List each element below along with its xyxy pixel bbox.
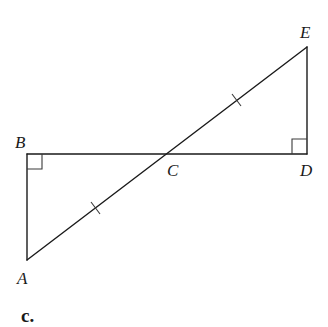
label-d: D <box>299 161 313 180</box>
figure-caption: c. <box>21 305 34 326</box>
geometry-diagram: A B C D E c. <box>0 0 328 327</box>
right-angle-marker-b <box>27 154 42 169</box>
label-b: B <box>15 133 26 152</box>
right-angle-marker-d <box>292 139 307 154</box>
label-e: E <box>299 23 311 42</box>
label-c: C <box>167 161 179 180</box>
congruence-tick-ce <box>232 94 241 106</box>
congruence-tick-ac <box>91 202 100 214</box>
label-a: A <box>16 269 28 288</box>
